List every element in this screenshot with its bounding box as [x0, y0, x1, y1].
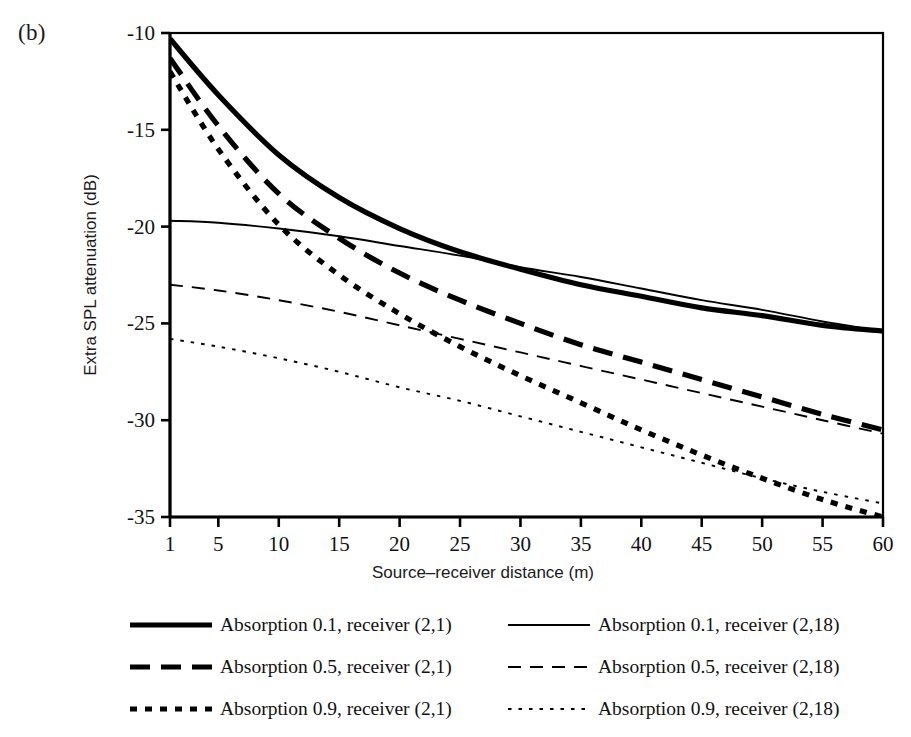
legend-item-label: Absorption 0.9, receiver (2,18)	[598, 698, 840, 720]
x-tick-label: 50	[752, 532, 773, 556]
x-tick-label: 55	[812, 532, 833, 556]
legend-line-sample-icon	[128, 660, 214, 674]
legend-column-right: Absorption 0.1, receiver (2,18)Absorptio…	[506, 604, 840, 730]
legend-item[interactable]: Absorption 0.1, receiver (2,1)	[128, 604, 452, 646]
figure-panel-b: (b) -10-15-20-25-30-35151015202530354045…	[0, 0, 911, 737]
series-line-6	[170, 339, 883, 504]
y-tick-label: -25	[127, 311, 155, 335]
series-line-3	[170, 72, 883, 517]
axes	[161, 33, 883, 527]
y-tick-label: -10	[127, 21, 155, 45]
legend-column-left: Absorption 0.1, receiver (2,1)Absorption…	[128, 604, 452, 730]
y-tick-label: -30	[127, 408, 155, 432]
legend-item[interactable]: Absorption 0.9, receiver (2,1)	[128, 688, 452, 730]
y-tick-label: -35	[127, 505, 155, 529]
series-lines	[170, 39, 883, 517]
legend-item[interactable]: Absorption 0.5, receiver (2,1)	[128, 646, 452, 688]
x-tick-label: 30	[510, 532, 531, 556]
legend-line-sample-icon	[128, 702, 214, 716]
legend-item-label: Absorption 0.1, receiver (2,18)	[598, 614, 840, 636]
legend-item-label: Absorption 0.9, receiver (2,1)	[220, 698, 452, 720]
series-line-2	[170, 58, 883, 430]
legend-item-label: Absorption 0.5, receiver (2,1)	[220, 656, 452, 678]
x-axis-title: Source–receiver distance (m)	[372, 563, 594, 582]
legend-item[interactable]: Absorption 0.9, receiver (2,18)	[506, 688, 840, 730]
x-tick-label: 15	[329, 532, 350, 556]
series-line-4	[170, 221, 883, 331]
legend-line-sample-icon	[128, 618, 214, 632]
x-tick-label: 10	[268, 532, 289, 556]
x-tick-label: 1	[165, 532, 176, 556]
legend-line-sample-icon	[506, 702, 592, 716]
y-axis-title: Extra SPL attenuation (dB)	[81, 174, 100, 376]
x-tick-label: 45	[691, 532, 712, 556]
legend-item-label: Absorption 0.1, receiver (2,1)	[220, 614, 452, 636]
x-tick-label: 40	[631, 532, 652, 556]
legend-item-label: Absorption 0.5, receiver (2,18)	[598, 656, 840, 678]
legend: Absorption 0.1, receiver (2,1)Absorption…	[128, 604, 898, 730]
legend-line-sample-icon	[506, 660, 592, 674]
x-tick-label: 60	[873, 532, 894, 556]
x-tick-label: 35	[570, 532, 591, 556]
x-tick-label: 25	[450, 532, 471, 556]
tick-labels: -10-15-20-25-30-351510152025303540455055…	[127, 21, 894, 556]
y-tick-label: -20	[127, 215, 155, 239]
x-tick-label: 20	[389, 532, 410, 556]
legend-item[interactable]: Absorption 0.1, receiver (2,18)	[506, 604, 840, 646]
series-line-1	[170, 39, 883, 331]
legend-line-sample-icon	[506, 618, 592, 632]
series-line-5	[170, 285, 883, 434]
x-tick-label: 5	[213, 532, 224, 556]
legend-item[interactable]: Absorption 0.5, receiver (2,18)	[506, 646, 840, 688]
chart-plot: -10-15-20-25-30-351510152025303540455055…	[0, 0, 911, 600]
y-tick-label: -15	[127, 118, 155, 142]
